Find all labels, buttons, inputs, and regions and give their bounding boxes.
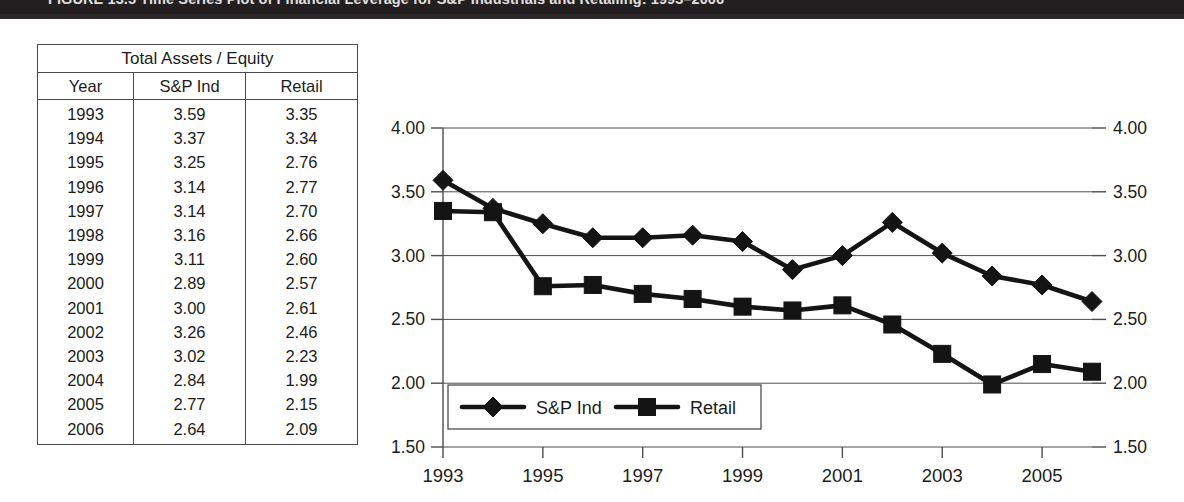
cell-sp-ind: 3.26	[134, 320, 246, 344]
table-header-row: Year S&P Ind Retail	[38, 73, 358, 100]
data-point-marker-square	[734, 298, 751, 315]
cell-retail: 3.34	[246, 126, 358, 150]
chart-legend: S&P IndRetail	[448, 385, 761, 429]
x-axis-ticks: 1993199519971999200120032005	[422, 447, 1062, 486]
series-line-retail	[443, 211, 1092, 385]
data-point-marker-diamond	[982, 266, 1002, 286]
chart-svg: 1.502.002.503.003.504.00 1.502.002.503.0…	[380, 108, 1184, 502]
y-axis-right-label: 3.50	[1113, 182, 1147, 202]
y-axis-right-label: 2.00	[1113, 373, 1147, 393]
y-axis-right-label: 3.00	[1113, 246, 1147, 266]
data-point-marker-diamond	[683, 225, 703, 245]
x-axis-label: 1993	[422, 465, 463, 486]
legend-label: S&P Ind	[536, 398, 602, 418]
data-point-marker-diamond	[583, 228, 603, 248]
legend-marker-square	[639, 399, 656, 416]
data-point-marker-square	[784, 302, 801, 319]
chart-series	[433, 170, 1102, 393]
table-row: 20023.262.46	[38, 320, 358, 344]
data-point-marker-square	[534, 278, 551, 295]
data-point-marker-square	[884, 316, 901, 333]
y-axis-left-label: 3.00	[391, 246, 425, 266]
cell-retail: 2.76	[246, 150, 358, 174]
y-axis-left-label: 4.00	[391, 118, 425, 138]
data-point-marker-diamond	[533, 214, 553, 234]
table-row: 20062.642.09	[38, 417, 358, 445]
cell-year: 1994	[38, 126, 134, 150]
table-title-row: Total Assets / Equity	[38, 45, 358, 73]
x-axis-label: 2001	[822, 465, 863, 486]
table-row: 20002.892.57	[38, 271, 358, 295]
x-axis-label: 1997	[622, 465, 663, 486]
cell-sp-ind: 3.25	[134, 150, 246, 174]
cell-sp-ind: 2.77	[134, 392, 246, 416]
table-row: 19953.252.76	[38, 150, 358, 174]
cell-retail: 2.70	[246, 199, 358, 223]
table-title-cell: Total Assets / Equity	[38, 45, 358, 73]
table-body: 19933.593.3519943.373.3419953.252.761996…	[38, 100, 358, 445]
cell-year: 2004	[38, 368, 134, 392]
data-point-marker-diamond	[1032, 275, 1052, 295]
data-point-marker-square	[584, 276, 601, 293]
table-row: 19993.112.60	[38, 247, 358, 271]
cell-retail: 2.23	[246, 344, 358, 368]
y-axis-left-ticks: 1.502.002.503.003.504.00	[391, 118, 443, 457]
data-point-marker-square	[834, 297, 851, 314]
leverage-time-series-chart: 1.502.002.503.003.504.00 1.502.002.503.0…	[380, 108, 1184, 502]
cell-retail: 2.09	[246, 417, 358, 445]
table-row: 19983.162.66	[38, 223, 358, 247]
y-axis-right-label: 4.00	[1113, 118, 1147, 138]
x-axis-label: 2003	[922, 465, 963, 486]
data-point-marker-square	[984, 376, 1001, 393]
cell-sp-ind: 2.84	[134, 368, 246, 392]
cell-year: 1995	[38, 150, 134, 174]
leverage-data-table: Total Assets / Equity Year S&P Ind Retai…	[37, 44, 358, 445]
x-axis-label: 1995	[522, 465, 563, 486]
cell-year: 1997	[38, 199, 134, 223]
cell-retail: 2.60	[246, 247, 358, 271]
table-row: 19963.142.77	[38, 175, 358, 199]
data-point-marker-square	[634, 285, 651, 302]
data-point-marker-diamond	[433, 170, 453, 190]
y-axis-left-label: 2.00	[391, 373, 425, 393]
y-axis-left-label: 3.50	[391, 182, 425, 202]
data-point-marker-square	[934, 345, 951, 362]
cell-sp-ind: 3.16	[134, 223, 246, 247]
table-row: 20052.772.15	[38, 392, 358, 416]
legend-label: Retail	[690, 398, 736, 418]
y-axis-left-label: 1.50	[391, 437, 425, 457]
cell-retail: 2.66	[246, 223, 358, 247]
cell-retail: 2.61	[246, 296, 358, 320]
leverage-data-table-container: Total Assets / Equity Year S&P Ind Retai…	[37, 44, 357, 445]
cell-sp-ind: 2.89	[134, 271, 246, 295]
cell-sp-ind: 3.37	[134, 126, 246, 150]
cell-year: 2002	[38, 320, 134, 344]
data-point-marker-square	[1034, 356, 1051, 373]
data-point-marker-diamond	[633, 228, 653, 248]
figure-caption-text: FIGURE 13.5 Time Series Plot of Financia…	[48, 0, 724, 7]
y-axis-right-label: 2.50	[1113, 309, 1147, 329]
cell-year: 2006	[38, 417, 134, 445]
table-head: Total Assets / Equity Year S&P Ind Retai…	[38, 45, 358, 100]
cell-sp-ind: 3.59	[134, 100, 246, 127]
table-row: 20033.022.23	[38, 344, 358, 368]
figure-caption-banner: FIGURE 13.5 Time Series Plot of Financia…	[0, 0, 1184, 19]
data-point-marker-diamond	[1082, 292, 1102, 312]
column-header-year: Year	[38, 73, 134, 100]
table-row: 19933.593.35	[38, 100, 358, 127]
banner-stripe	[0, 14, 1184, 19]
cell-sp-ind: 3.11	[134, 247, 246, 271]
cell-retail: 2.46	[246, 320, 358, 344]
column-header-retail: Retail	[246, 73, 358, 100]
cell-year: 2005	[38, 392, 134, 416]
cell-sp-ind: 3.02	[134, 344, 246, 368]
cell-year: 2003	[38, 344, 134, 368]
table-row: 20013.002.61	[38, 296, 358, 320]
cell-year: 1998	[38, 223, 134, 247]
cell-retail: 2.77	[246, 175, 358, 199]
cell-sp-ind: 3.00	[134, 296, 246, 320]
data-point-marker-square	[1084, 363, 1101, 380]
data-point-marker-square	[484, 204, 501, 221]
cell-year: 2000	[38, 271, 134, 295]
cell-sp-ind: 3.14	[134, 175, 246, 199]
